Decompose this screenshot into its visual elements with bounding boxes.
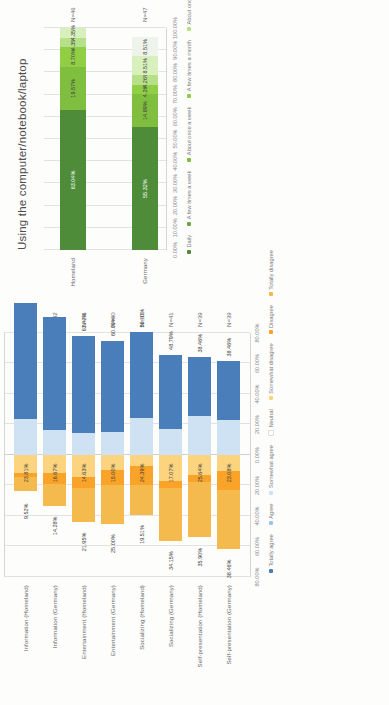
value-label: 24.39% [139,464,145,483]
value-label: 17.07% [168,464,174,483]
legend-item: Agree [268,504,274,526]
bar-segment [159,488,182,540]
x-tick-label: 40.00% [254,507,260,526]
gridline [4,546,250,547]
value-label: 25.64% [197,464,203,483]
gridline [4,485,250,486]
value-label: 23.81% [23,464,29,483]
x-tick-label: 30.00% [172,174,178,193]
sample-size-label: N=46 [69,7,76,22]
bar-segment [72,433,95,455]
value-label: 38.46% [226,338,232,357]
value-label: 19.57% [70,79,76,98]
x-tick-label: 0.00% [172,242,178,258]
x-tick-label: 40.00% [172,152,178,171]
legend-swatch [187,27,191,31]
value-label: 23.08% [226,464,232,483]
gridline [4,576,250,577]
value-label: 38.46% [226,560,232,579]
likert-chart: Information (Homeland)Information (Germa… [0,320,389,705]
legend-label: A few times a week [186,171,192,220]
legend-swatch [187,158,191,162]
category-label: Self-presentation (Homeland) [196,585,203,705]
bar-segment [159,429,182,455]
category-label: Information (Homeland) [22,585,29,705]
legend-swatch [187,250,191,254]
legend-item: A few times a month [186,40,192,98]
legend-swatch [269,569,273,573]
legend-label: Neutral [268,409,274,427]
category-label: Homeland [69,258,76,320]
chart-title: Using the computer/notebook/laptop [16,58,28,250]
value-label: 63.04% [70,171,76,190]
legend-item: Daily [186,235,192,254]
value-label: 4.35% [70,25,76,41]
figure-canvas: Information (Homeland)Information (Germa… [0,0,389,705]
value-label: 9.52% [23,503,29,519]
x-tick-label: 50.00% [172,130,178,149]
x-tick-label: 80.00% [254,568,260,587]
legend-item: Somewhat disagree [268,343,274,400]
value-label: 38.46% [197,334,203,353]
legend-item: About once a month [186,0,192,31]
x-tick-label: 20.00% [254,476,260,495]
bar-segment [217,420,240,455]
legend-swatch [269,396,273,400]
legend-item: Totally agree [268,534,274,573]
x-tick-label: 100.00% [172,17,178,39]
value-label: 16.67% [52,464,58,483]
bar-segment [101,341,124,433]
legend-label: About once a month [186,0,192,25]
axis-baseline [4,333,5,577]
value-label: 48.79% [168,331,174,350]
value-label: 14.89% [142,101,148,120]
gridline [4,515,250,516]
legend-swatch [269,330,273,334]
bar-segment [72,336,95,433]
bar-segment [101,432,124,455]
bar-segment [188,416,211,455]
value-label: 34.15% [168,551,174,570]
bar-segment [188,482,211,537]
legend-label: About once a week [186,107,192,155]
sample-size-label: N=47 [141,7,148,22]
usage-frequency-chart: Using the computer/notebook/laptop Homel… [0,0,389,320]
value-label: 19.51% [139,525,145,544]
x-tick-label: 40.00% [254,385,260,404]
x-tick-label: 10.00% [172,218,178,237]
bar-segment [217,361,240,420]
x-tick-label: 80.00% [254,324,260,343]
legend-swatch [187,222,191,226]
category-label: Information (Germany) [51,585,58,705]
legend-label: Somewhat agree [268,445,274,488]
axis-baseline [166,28,167,250]
legend-label: Totally agree [268,534,274,566]
category-label: Self-presentation (Germany) [225,585,232,705]
legend-item: Neutral [268,409,274,436]
legend-item: A few times a week [186,171,192,226]
category-label: Entertainment (Homeland) [80,585,87,705]
gridline [4,363,250,364]
x-tick-label: 60.00% [254,537,260,556]
category-label: Entertainment (Germany) [109,585,116,705]
category-label: Germany [141,258,148,320]
x-tick-label: 70.00% [172,85,178,104]
x-tick-label: 20.00% [254,415,260,434]
x-tick-label: 80.00% [172,63,178,82]
bar-segment [217,490,240,549]
x-tick-label: 20.00% [172,196,178,215]
usage-legend: DailyA few times a weekAbout once a week… [186,0,192,254]
value-label: 14.28% [52,517,58,536]
value-label: 8.51% [142,39,148,55]
bar-segment [130,418,153,455]
x-tick-label: 60.00% [172,107,178,126]
value-label: 14.63% [81,464,87,483]
bar-segment [130,485,153,515]
value-label: 15.00% [110,464,116,483]
value-label: 25.00% [110,534,116,553]
legend-swatch [269,521,273,525]
gridline [4,393,250,394]
category-label: Socializing (Homeland) [138,585,145,705]
value-label: 8.51% [142,58,148,74]
legend-swatch [268,430,274,436]
